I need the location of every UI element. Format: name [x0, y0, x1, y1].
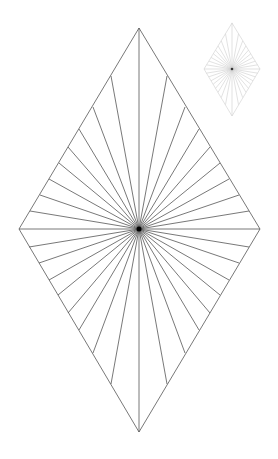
center-point: [137, 227, 142, 232]
ray-line: [39, 229, 139, 263]
ray-line: [59, 163, 139, 229]
ray-line: [93, 107, 139, 229]
ray-line: [139, 229, 239, 263]
thumbnail-rhombus: [204, 23, 260, 116]
ray-line: [139, 229, 210, 313]
ray-line: [68, 229, 139, 313]
thumbnail-center-point: [231, 68, 234, 71]
diagram-canvas: [0, 0, 278, 459]
main-rhombus: [19, 28, 260, 432]
